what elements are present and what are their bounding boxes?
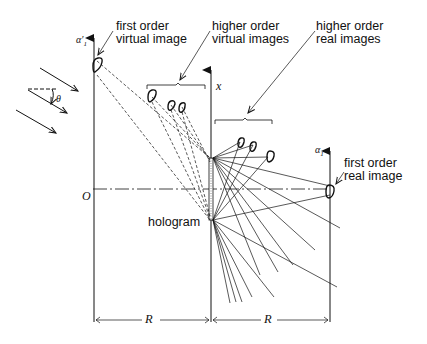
higher-order-real-label: higher order real images bbox=[316, 20, 383, 46]
virtual-brace bbox=[147, 83, 205, 89]
x-axis-label: x bbox=[216, 80, 221, 93]
real-brace bbox=[215, 118, 272, 124]
higher-order-virtual-label: higher order virtual images bbox=[212, 20, 289, 46]
real-image-rays bbox=[213, 142, 340, 303]
dimension-lines bbox=[96, 317, 328, 323]
hologram-label: hologram bbox=[148, 216, 200, 229]
theta-label: θ bbox=[56, 92, 61, 105]
first-order-real-label: first order real image bbox=[344, 157, 402, 183]
distance-right-label: R bbox=[264, 313, 272, 326]
hologram-imaging-diagram: first order virtual image higher order v… bbox=[0, 0, 427, 344]
alpha-real-label: α1 bbox=[315, 143, 324, 161]
incident-wave-arrows bbox=[16, 68, 78, 133]
first-order-virtual-label: first order virtual image bbox=[116, 20, 187, 46]
alpha-virtual-label: α′1 bbox=[76, 33, 87, 51]
label-leaders bbox=[98, 31, 344, 184]
distance-left-label: R bbox=[145, 313, 153, 326]
origin-label: O bbox=[82, 190, 91, 203]
